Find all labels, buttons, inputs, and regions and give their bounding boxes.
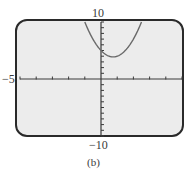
- calculator-screen-frame: [16, 20, 183, 136]
- x-axis-min-label: −5: [2, 73, 15, 85]
- figure-caption: (b): [87, 156, 100, 168]
- y-axis-min-label: −10: [89, 139, 108, 151]
- y-axis-max-label: 10: [92, 7, 104, 19]
